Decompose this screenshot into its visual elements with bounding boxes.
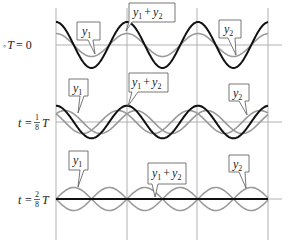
svg-text:=: = [25,116,32,130]
svg-text:8: 8 [35,123,39,132]
svg-text:t: t [18,116,22,130]
callout-y1-t2-8: y1 [69,151,88,187]
svg-text:y1+y2: y1+y2 [132,5,162,21]
time-label-t1-8: t = 1 8 T [18,113,50,132]
svg-text:t: t [18,193,22,207]
time-label-t2-8: t = 2 8 T [18,190,50,209]
svg-text:T: T [42,116,50,130]
callout-y2-t1-8: y2 [229,84,249,115]
callout-y2-t2-8: y2 [229,155,249,188]
svg-text:2: 2 [35,190,39,199]
svg-text:8: 8 [35,200,39,209]
callout-y2-t0: y2 [219,20,241,55]
svg-text:T: T [42,193,50,207]
callout-y1-t1-8: y1 [69,79,88,113]
vertical-gridlines [56,8,268,240]
callout-sum-t1-8: y1+y2 [128,73,168,106]
wave-superposition-diagram: ◦T= 0 t = 1 8 T t = 2 8 T y1 [0,0,294,247]
svg-text:=: = [25,193,32,207]
panel-t2-8: t = 2 8 T [18,188,268,211]
svg-text:y1+y2: y1+y2 [151,166,181,182]
time-label-t0: ◦T= 0 [3,38,32,52]
callout-sum-t2-8: y1+y2 [148,163,186,197]
svg-text:1: 1 [35,113,39,122]
callout-y1-t0: y1 [77,22,100,54]
svg-text:y1+y2: y1+y2 [131,75,161,91]
